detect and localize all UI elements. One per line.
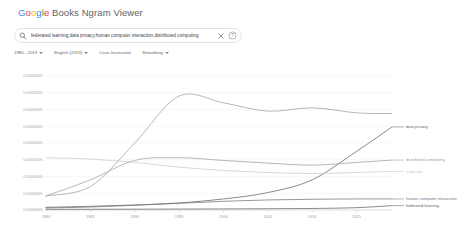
series-label-federated-learning[interactable]: federated learning xyxy=(406,203,440,208)
help-circle-icon[interactable]: ? xyxy=(228,31,237,40)
search-bar[interactable]: federated learning,data privacy,human co… xyxy=(14,28,242,43)
controls-row: 1980 - 2019 English (2019) Case-Insensit… xyxy=(14,50,169,55)
y-axis-tick-label: 0.0000000% xyxy=(23,208,43,212)
x-axis-tick-label: 1990 xyxy=(130,214,139,219)
y-axis-tick-label: 0.0003500% xyxy=(23,91,43,95)
y-axis-tick-label: 0.0000500% xyxy=(23,192,43,196)
series-label-ui-design[interactable]: ui design xyxy=(406,169,423,174)
chevron-down-icon xyxy=(39,52,43,54)
date-range-selector[interactable]: 1980 - 2019 xyxy=(14,50,43,55)
y-axis-tick-label: 0.0003000% xyxy=(23,108,43,112)
svg-text:?: ? xyxy=(231,33,234,38)
series-label-data-privacy[interactable]: data privacy xyxy=(406,124,429,129)
corpus-selector[interactable]: English (2019) xyxy=(54,50,88,55)
y-axis-tick-label: 0.0001000% xyxy=(23,175,43,179)
page-title: Google Books Ngram Viewer xyxy=(18,7,143,18)
y-axis-tick-label: 0.0002500% xyxy=(23,125,43,129)
chart-line-peak-curve[interactable] xyxy=(46,94,392,196)
chart-line-data-privacy[interactable] xyxy=(46,127,392,207)
chevron-down-icon xyxy=(165,52,169,54)
ngram-chart[interactable]: 0.0004000%0.0003500%0.0003000%0.0002500%… xyxy=(0,68,476,228)
chart-line-human-computer-interaction[interactable] xyxy=(46,199,392,208)
smoothing-label: Smoothing xyxy=(142,50,163,55)
chart-canvas: 0.0004000%0.0003500%0.0003000%0.0002500%… xyxy=(0,68,476,228)
x-axis-tick-label: 2005 xyxy=(263,214,272,219)
date-range-label: 1980 - 2019 xyxy=(14,50,37,55)
x-axis-tick-label: 2015 xyxy=(352,214,361,219)
smoothing-selector[interactable]: Smoothing xyxy=(142,50,169,55)
x-axis-tick-label: 1980 xyxy=(42,214,51,219)
search-icon xyxy=(19,32,27,40)
case-insensitive-toggle[interactable]: Case-Insensitive xyxy=(99,50,131,55)
chart-line-distributed-computing[interactable] xyxy=(46,158,392,196)
page-title-rest: Books Ngram Viewer xyxy=(49,7,143,18)
x-axis-tick-label: 2010 xyxy=(308,214,317,219)
case-insensitive-label: Case-Insensitive xyxy=(99,50,131,55)
logo-letter-g: G xyxy=(18,7,26,18)
page-header: Google Books Ngram Viewer xyxy=(18,7,143,18)
close-icon[interactable] xyxy=(217,32,225,40)
x-axis-tick-label: 1995 xyxy=(175,214,184,219)
x-axis-tick-label: 2000 xyxy=(219,214,228,219)
y-axis-tick-label: 0.0002000% xyxy=(23,141,43,145)
corpus-label: English (2019) xyxy=(54,50,82,55)
series-label-human-computer-interaction[interactable]: human computer interaction xyxy=(406,196,457,201)
search-input[interactable]: federated learning,data privacy,human co… xyxy=(31,33,214,38)
ngram-viewer-app: Google Books Ngram Viewer federated lear… xyxy=(0,0,476,237)
chevron-down-icon xyxy=(84,52,88,54)
series-label-distributed-computing[interactable]: distributed computing xyxy=(406,157,446,162)
y-axis-tick-label: 0.0001500% xyxy=(23,158,43,162)
y-axis-tick-label: 0.0004000% xyxy=(23,74,43,78)
x-axis-tick-label: 1985 xyxy=(86,214,95,219)
